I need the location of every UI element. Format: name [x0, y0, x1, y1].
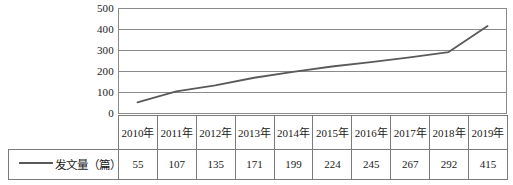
table-row-years: 2010年 2011年 2012年 2013年 2014年 2015年 2016… [9, 116, 508, 150]
y-tick-label-400: 400 [72, 24, 114, 35]
table-header-2016: 2016年 [352, 116, 391, 150]
table-cell-2014: 199 [274, 149, 313, 179]
table-header-2015: 2015年 [313, 116, 352, 150]
table-header-2019: 2019年 [469, 116, 508, 150]
legend-line-icon [19, 162, 53, 164]
y-tick-label-100: 100 [72, 87, 114, 98]
legend-label: 发文量（篇） [55, 156, 121, 172]
line-series-发文量 [118, 8, 507, 114]
table-header-2014: 2014年 [274, 116, 313, 150]
table-header-2012: 2012年 [196, 116, 235, 150]
chart-figure: 500 400 300 200 100 0 2010年 [0, 0, 513, 185]
table-header-2011: 2011年 [157, 116, 196, 150]
table-cell-2018: 292 [430, 149, 469, 179]
y-tick-label-300: 300 [72, 45, 114, 56]
y-axis: 500 400 300 200 100 0 [72, 0, 114, 120]
table-cell-2013: 171 [235, 149, 274, 179]
y-tick-label-500: 500 [72, 3, 114, 14]
table-header-2018: 2018年 [430, 116, 469, 150]
table-row-values: 发文量（篇） 55 107 135 171 199 224 245 267 29… [9, 149, 508, 179]
table-header-2010: 2010年 [119, 116, 158, 150]
table-cell-2010: 55 [119, 149, 158, 179]
table-cell-2016: 245 [352, 149, 391, 179]
table-cell-2012: 135 [196, 149, 235, 179]
table-cell-2017: 267 [391, 149, 430, 179]
table-cell-2011: 107 [157, 149, 196, 179]
legend-entry: 发文量（篇） [9, 149, 119, 179]
y-tick-label-200: 200 [72, 66, 114, 77]
table-cell-2019: 415 [469, 149, 508, 179]
table-cell-2015: 224 [313, 149, 352, 179]
table-header-2017: 2017年 [391, 116, 430, 150]
data-table: 2010年 2011年 2012年 2013年 2014年 2015年 2016… [8, 115, 508, 180]
plot-area [118, 8, 507, 114]
table-header-2013: 2013年 [235, 116, 274, 150]
table-corner-cell [9, 116, 119, 150]
